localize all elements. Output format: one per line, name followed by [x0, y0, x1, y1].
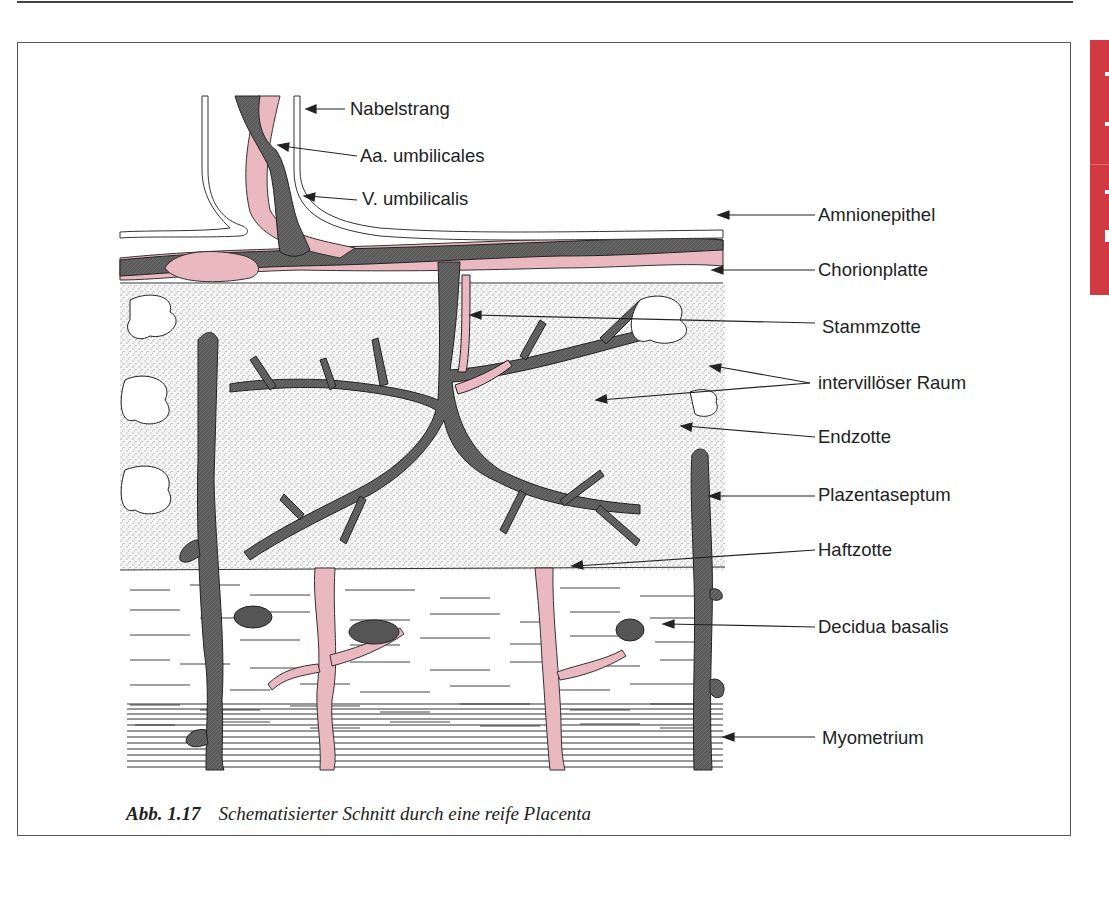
figure-caption-text: Schematisierter Schnitt durch eine reife…	[218, 803, 591, 824]
figure-caption: Abb. 1.17Schematisierter Schnitt durch e…	[126, 803, 591, 825]
label-endzotte: Endzotte	[818, 428, 891, 447]
label-haftzotte: Haftzotte	[818, 541, 892, 560]
label-nabelstrang: Nabelstrang	[350, 100, 450, 119]
placenta-diagram	[0, 0, 1109, 907]
label-myometrium: Myometrium	[822, 729, 924, 748]
label-v-umbilicalis: V. umbilicalis	[362, 190, 468, 209]
label-plazentaseptum: Plazentaseptum	[818, 486, 951, 505]
label-intervilloeser-raum: intervillöser Raum	[818, 374, 966, 393]
label-amnionepithel: Amnionepithel	[818, 206, 935, 225]
label-aa-umbilicales: Aa. umbilicales	[360, 147, 484, 166]
label-stammzotte: Stammzotte	[822, 318, 921, 337]
label-chorionplatte: Chorionplatte	[818, 261, 928, 280]
label-decidua-basalis: Decidua basalis	[818, 618, 949, 637]
figure-number: Abb. 1.17	[126, 803, 200, 824]
